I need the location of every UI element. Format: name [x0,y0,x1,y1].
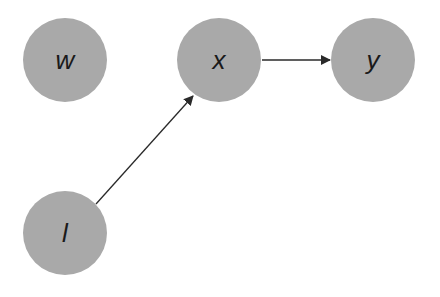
node-x-label: x [211,45,227,75]
edge-l-to-w [96,96,193,204]
node-y: y [331,18,415,102]
node-x: x [177,18,261,102]
node-y-label: y [365,45,382,75]
node-w: w [23,18,107,102]
node-l: l [23,191,107,275]
node-w-label: w [56,45,77,75]
diagram-canvas: w x y l [0,0,440,297]
